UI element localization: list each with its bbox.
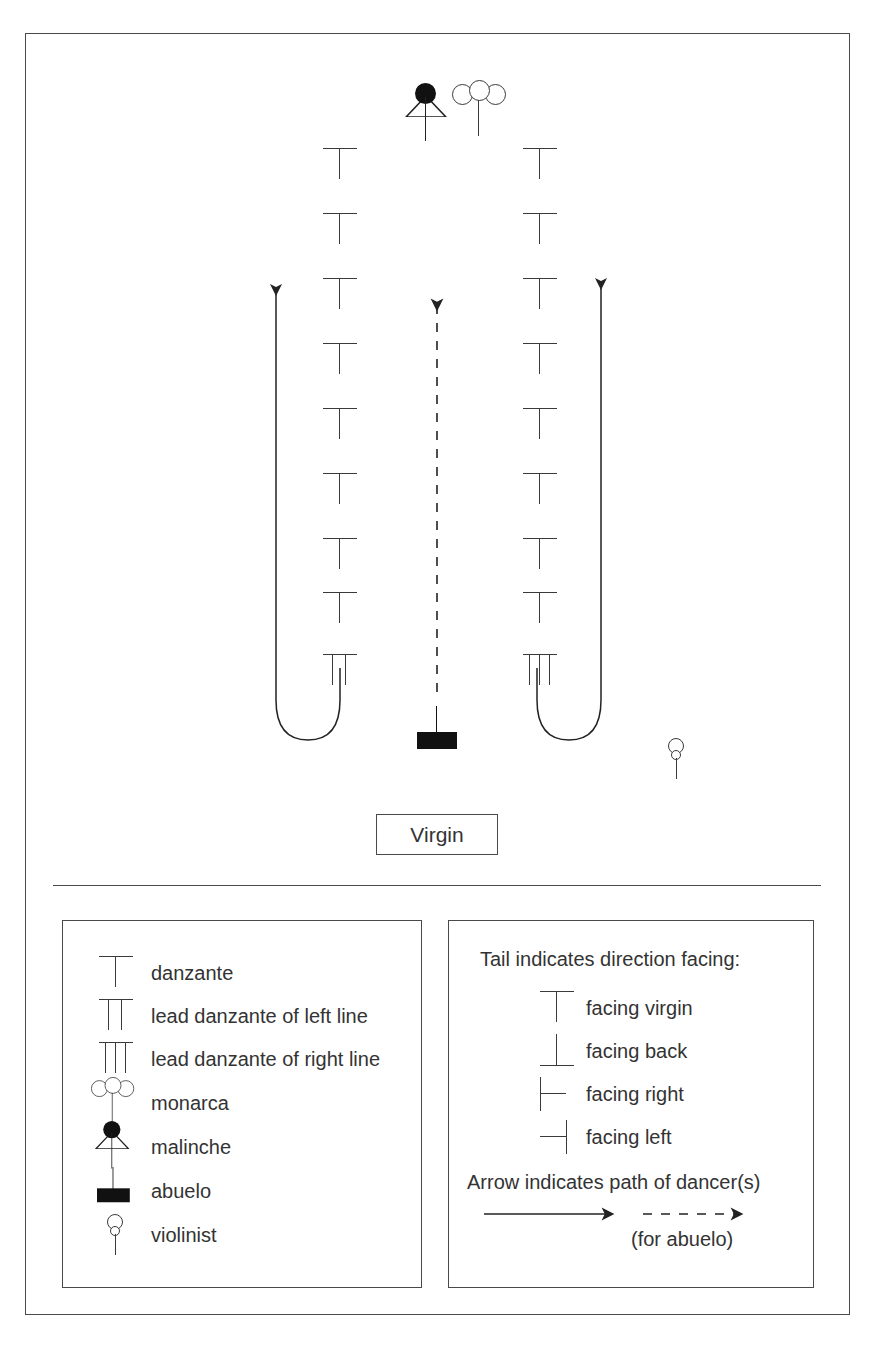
danzante-left-1: [323, 148, 357, 182]
danzante-left-6: [323, 473, 357, 507]
facing-right-icon: [534, 1072, 586, 1116]
danzante-bar: [523, 278, 557, 279]
legend-item-facing-left: facing left: [534, 1115, 672, 1159]
danzante-right-1: [523, 148, 557, 182]
legend-label: lead danzante of right line: [151, 1049, 380, 1069]
legend-item-violinist: violinist: [91, 1213, 217, 1257]
danzante-bar: [523, 408, 557, 409]
danzante-stem: [549, 654, 550, 685]
legend-item-lead-danzante-right: lead danzante of right line: [91, 1037, 380, 1081]
danzante-bar: [523, 343, 557, 344]
danzante-stem: [539, 473, 540, 504]
danzante-bar: [323, 408, 357, 409]
facing-left-icon: [534, 1115, 586, 1159]
dashed-arrow-sample: [641, 1206, 771, 1222]
danzante-stem: [539, 343, 540, 374]
danzante-stem: [539, 654, 540, 685]
danzante-bar: [523, 213, 557, 214]
legend-item-facing-right: facing right: [534, 1072, 684, 1116]
legend-item-danzante: danzante: [91, 951, 233, 995]
danzante-bar: [323, 213, 357, 214]
diagram-root: Virgin danzante lead danzante of left li…: [0, 0, 876, 1346]
legend-label: monarca: [151, 1093, 229, 1113]
legend-label: lead danzante of left line: [151, 1006, 368, 1026]
danzante-bar: [523, 538, 557, 539]
legend-item-abuelo: abuelo: [91, 1169, 211, 1213]
danzante-left-4: [323, 343, 357, 377]
legend-label: facing back: [586, 1041, 687, 1061]
danzante-bar: [523, 148, 557, 149]
danzante-stem: [332, 654, 333, 685]
legend-symbols-box: danzante lead danzante of left line lead…: [62, 920, 422, 1288]
danzante-stem: [539, 538, 540, 569]
danzante-stem: [345, 654, 346, 685]
lead-danzante-right-icon: [523, 654, 557, 688]
legend-label: facing virgin: [586, 998, 693, 1018]
danzante-stem: [539, 278, 540, 309]
section-divider: [53, 885, 821, 886]
legend-label: danzante: [151, 963, 233, 983]
danzante-bar: [323, 278, 357, 279]
danzante-stem: [339, 278, 340, 309]
danzante-left-5: [323, 408, 357, 442]
legend-direction-heading: Tail indicates direction facing:: [480, 948, 740, 971]
danzante-right-5: [523, 408, 557, 442]
dashed-arrow-note: (for abuelo): [631, 1228, 733, 1251]
danzante-stem: [539, 148, 540, 179]
lead-danzante-right-icon: [91, 1037, 151, 1081]
danzante-stem: [539, 213, 540, 244]
legend-label: facing right: [586, 1084, 684, 1104]
danzante-stem: [339, 213, 340, 244]
monarca-circle-center: [469, 80, 490, 101]
formation-stage: Virgin: [0, 0, 876, 900]
danzante-stem: [339, 343, 340, 374]
lead-danzante-left-icon: [323, 654, 357, 688]
legend-item-malinche: malinche: [91, 1125, 231, 1169]
danzante-stem: [339, 148, 340, 179]
danzante-bar: [323, 148, 357, 149]
violinist-icon: [91, 1213, 151, 1257]
danzante-stem: [339, 538, 340, 569]
danzante-icon: [91, 951, 151, 995]
legend-arrow-heading: Arrow indicates path of dancer(s): [467, 1171, 760, 1194]
danzante-stem: [539, 592, 540, 623]
facing-back-icon: [534, 1029, 586, 1073]
abuelo-box: [417, 732, 457, 749]
legend-item-facing-back: facing back: [534, 1029, 687, 1073]
violinist-stem: [676, 758, 677, 779]
monarca-icon: [91, 1081, 151, 1125]
virgin-label-box: Virgin: [376, 814, 498, 855]
danzante-stem: [539, 408, 540, 439]
danzante-bar: [323, 343, 357, 344]
malinche-stem: [425, 97, 426, 141]
legend-item-monarca: monarca: [91, 1081, 229, 1125]
danzante-left-8: [323, 592, 357, 626]
monarca-stem: [478, 100, 479, 136]
danzante-left-7: [323, 538, 357, 572]
danzante-stem: [339, 592, 340, 623]
legend-label: abuelo: [151, 1181, 211, 1201]
danzante-right-2: [523, 213, 557, 247]
danzante-stem: [339, 408, 340, 439]
legend-item-facing-virgin: facing virgin: [534, 986, 693, 1030]
solid-arrow-sample: [482, 1206, 622, 1222]
virgin-label: Virgin: [410, 823, 463, 847]
danzante-stem: [339, 473, 340, 504]
violinist-icon: [665, 738, 687, 780]
danzante-right-4: [523, 343, 557, 377]
danzante-right-8: [523, 592, 557, 626]
legend-label: malinche: [151, 1137, 231, 1157]
danzante-bar: [523, 473, 557, 474]
malinche-icon: [91, 1125, 151, 1169]
danzante-stem: [529, 654, 530, 685]
danzante-right-6: [523, 473, 557, 507]
abuelo-icon: [91, 1169, 151, 1213]
danzante-bar: [323, 538, 357, 539]
abuelo-stem: [436, 706, 437, 734]
facing-virgin-icon: [534, 986, 586, 1030]
malinche-icon: [405, 83, 447, 143]
danzante-bar: [323, 473, 357, 474]
danzante-right-7: [523, 538, 557, 572]
danzante-bar: [323, 654, 357, 655]
monarca-icon: [452, 80, 506, 138]
